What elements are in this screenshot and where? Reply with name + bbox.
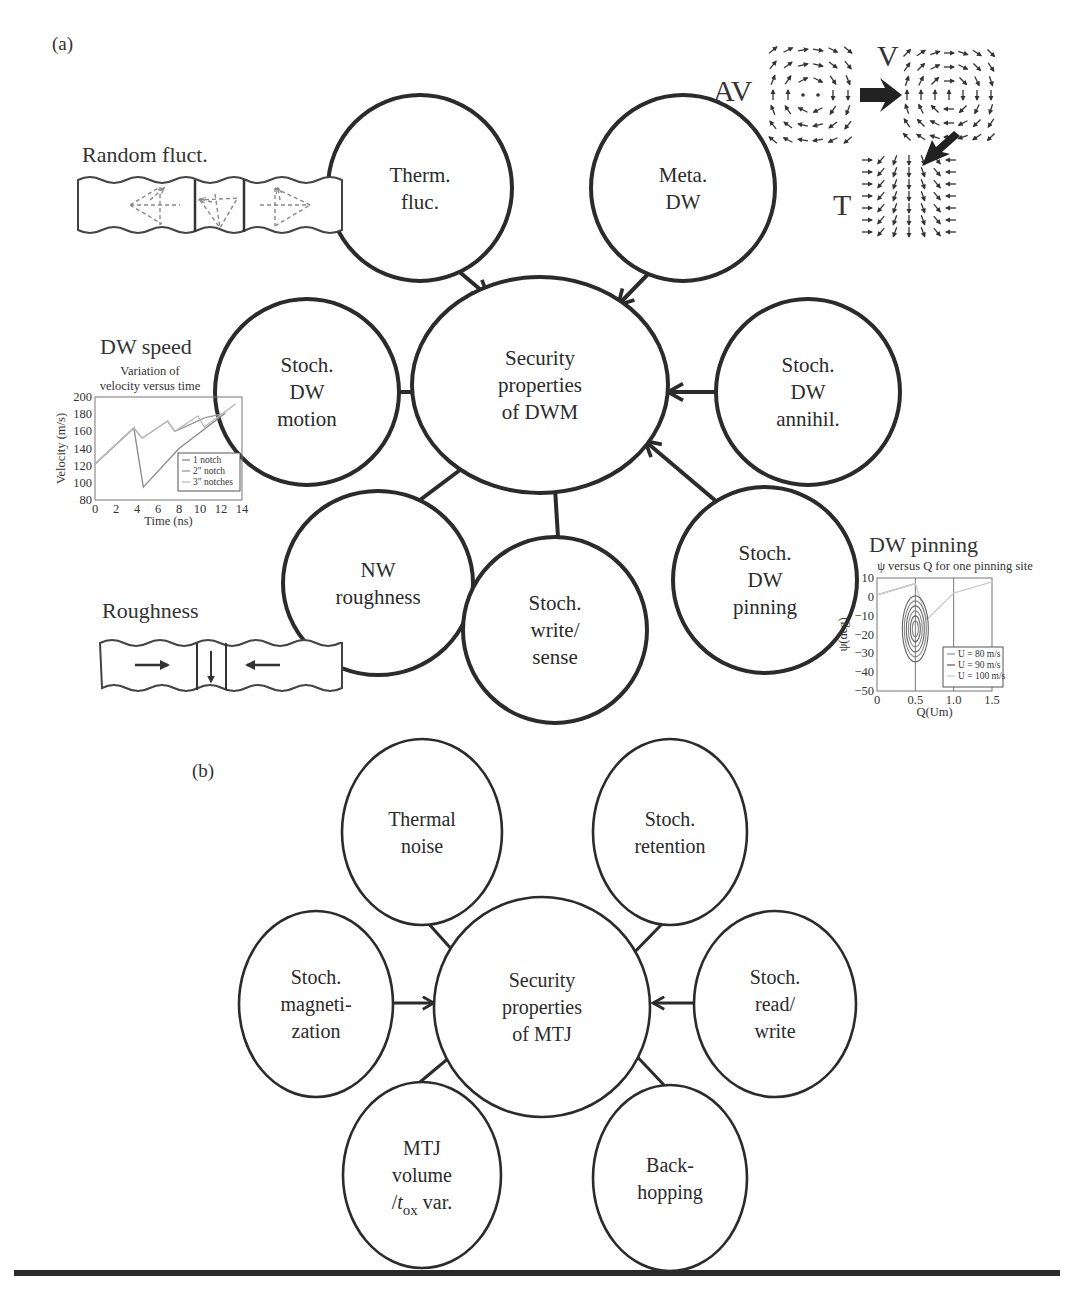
spin-arrow-icon bbox=[921, 203, 924, 212]
y-tick-label: 160 bbox=[73, 424, 92, 438]
spin-arrow-icon bbox=[931, 121, 940, 125]
node-stoch-retention: Stoch.retention bbox=[593, 739, 747, 925]
spin-arrow-icon bbox=[917, 119, 924, 126]
legend-entry: 3" notches bbox=[193, 477, 233, 487]
node-ellipse bbox=[591, 95, 775, 281]
node-ellipse bbox=[593, 1085, 747, 1271]
x-tick-label: 2 bbox=[113, 502, 119, 516]
spin-arrow-icon bbox=[829, 122, 837, 128]
spin-arrow-icon bbox=[846, 105, 850, 114]
x-tick-label: 1.5 bbox=[984, 693, 1000, 707]
y-tick-label: 10 bbox=[862, 571, 875, 585]
spin-arrow-icon bbox=[830, 106, 836, 114]
node-label: volume bbox=[392, 1164, 452, 1186]
spin-arrow-icon bbox=[798, 124, 808, 126]
spin-arrow-icon bbox=[784, 122, 792, 128]
spin-arrow-icon bbox=[987, 49, 994, 56]
y-tick-label: −30 bbox=[854, 646, 874, 660]
node-stoch-dw-motion: Stoch.DWmotion bbox=[215, 299, 399, 485]
spin-arrow-icon bbox=[798, 139, 808, 141]
spin-arrow-icon bbox=[934, 168, 940, 176]
y-tick-label: 180 bbox=[73, 407, 92, 421]
node-label: Back- bbox=[646, 1154, 694, 1176]
spin-arrow-icon bbox=[975, 77, 979, 86]
spin-arrow-icon bbox=[921, 191, 924, 200]
vortex-field bbox=[903, 49, 994, 140]
spin-arrow-icon bbox=[798, 64, 808, 66]
node-stoch-dw-annihil: Stoch.DWannihil. bbox=[716, 299, 900, 485]
spin-arrow-icon bbox=[893, 215, 896, 224]
inset-random-fluct: Random fluct. bbox=[78, 142, 342, 233]
spin-arrow-icon bbox=[931, 105, 938, 112]
x-tick-label: 14 bbox=[236, 502, 249, 516]
spin-arrow-icon bbox=[934, 180, 940, 188]
label-av: AV bbox=[713, 74, 753, 107]
node-label: hopping bbox=[637, 1181, 703, 1204]
spin-arrow-icon bbox=[798, 49, 808, 51]
node-label: retention bbox=[634, 835, 705, 857]
legend-entry: 2" notch bbox=[193, 466, 225, 476]
spin-arrow-icon bbox=[958, 51, 967, 54]
node-label: sense bbox=[532, 645, 578, 669]
x-tick-label: 10 bbox=[194, 502, 207, 516]
spin-arrow-icon bbox=[799, 78, 808, 82]
spin-arrow-icon bbox=[845, 121, 851, 129]
y-tick-label: 200 bbox=[73, 390, 92, 404]
legend-entry: U = 90 m/s bbox=[958, 660, 1001, 670]
spin-arrow-icon bbox=[921, 215, 924, 224]
spin-arrow-icon bbox=[813, 64, 823, 66]
x-tick-label: 12 bbox=[215, 502, 228, 516]
spin-arrow-icon bbox=[903, 133, 910, 140]
spin-arrow-icon bbox=[959, 77, 966, 84]
spin-arrow-icon bbox=[878, 168, 884, 176]
node-label: DW bbox=[748, 568, 783, 592]
legend-entry: U = 80 m/s bbox=[958, 649, 1001, 659]
x-tick-label: 0 bbox=[874, 693, 880, 707]
x-axis-label: Q(Um) bbox=[916, 705, 952, 719]
y-tick-label: −50 bbox=[854, 684, 874, 698]
node-label: pinning bbox=[733, 595, 798, 619]
spin-arrow-icon bbox=[904, 119, 910, 127]
chart-subtitle: velocity versus time bbox=[100, 379, 201, 393]
node-label: Stoch. bbox=[645, 808, 696, 830]
spin-arrow-icon bbox=[973, 134, 981, 140]
spin-arrow-icon bbox=[844, 47, 852, 53]
y-tick-label: −40 bbox=[854, 665, 874, 679]
spin-arrow-icon bbox=[770, 121, 776, 129]
spin-arrow-icon bbox=[784, 62, 792, 68]
node-label: MTJ bbox=[403, 1137, 441, 1159]
center-node: Securitypropertiesof MTJ bbox=[434, 897, 650, 1117]
x-tick-label: 4 bbox=[134, 502, 141, 516]
spin-arrow-icon bbox=[893, 179, 896, 188]
spin-arrow-icon bbox=[988, 63, 994, 71]
y-tick-label: 120 bbox=[73, 459, 92, 473]
spin-arrow-icon bbox=[845, 61, 851, 69]
spin-arrow-icon bbox=[769, 47, 777, 53]
spin-arrow-icon bbox=[934, 192, 940, 200]
label-t: T bbox=[833, 188, 851, 221]
figure-canvas: (a) (b) Securitypropertiesof DWMTherm.fl… bbox=[0, 0, 1073, 1289]
spin-arrow-icon bbox=[921, 179, 924, 188]
node-meta-dw: Meta.DW bbox=[591, 95, 775, 281]
node-label: NW bbox=[361, 558, 396, 582]
spin-arrow-icon bbox=[814, 108, 823, 112]
spin-arrow-icon bbox=[893, 191, 896, 200]
spin-arrow-icon bbox=[905, 104, 908, 113]
chart-subtitle: Variation of bbox=[120, 364, 180, 378]
spin-arrow-icon bbox=[930, 51, 939, 54]
node-label: Stoch. bbox=[738, 541, 791, 565]
spin-arrow-icon bbox=[770, 61, 776, 69]
antivortex-field bbox=[769, 47, 852, 143]
spin-arrow-icon bbox=[931, 65, 940, 69]
node-label: Meta. bbox=[659, 163, 707, 187]
node-back-hopping: Back-hopping bbox=[593, 1085, 747, 1271]
spin-arrow-icon bbox=[921, 167, 924, 176]
node-label: Stoch. bbox=[280, 353, 333, 377]
legend-entry: U = 100 m/s bbox=[958, 671, 1006, 681]
node-mtj-volume: MTJvolume/tox var. bbox=[343, 1082, 501, 1268]
y-tick-label: −10 bbox=[854, 609, 874, 623]
node-ellipse bbox=[342, 739, 502, 925]
spin-arrow-icon bbox=[973, 63, 980, 70]
transition-arrow-icon bbox=[922, 131, 960, 166]
node-label: read/ bbox=[755, 993, 795, 1015]
